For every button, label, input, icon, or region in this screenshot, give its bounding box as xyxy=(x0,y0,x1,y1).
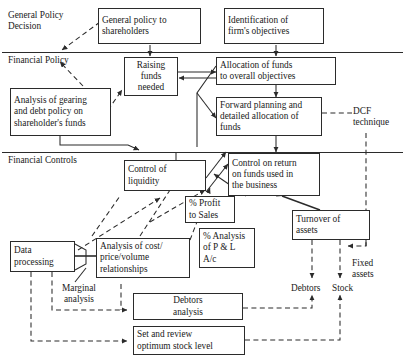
flowchart-diagram: General Policy Decision Financial Policy… xyxy=(0,0,405,363)
edge-allocation-branch xyxy=(197,93,216,118)
label-marginal-analysis: Marginal analysis xyxy=(62,283,96,305)
box-general-policy-to-shareholders[interactable]: General policy to shareholders xyxy=(98,8,201,44)
box-percent-analysis-p-and-l[interactable]: % Analysis of P & L A/c xyxy=(199,228,255,268)
box-control-of-liquidity[interactable]: Control of liquidity xyxy=(124,160,206,191)
box-control-on-return[interactable]: Control on return on funds used in the b… xyxy=(228,153,320,196)
band-label-financial-controls: Financial Controls xyxy=(8,155,77,166)
band-label-financial-policy: Financial Policy xyxy=(8,55,69,66)
edge-data-up-2 xyxy=(92,196,120,236)
box-forward-planning[interactable]: Forward planning and detailed allocation… xyxy=(216,97,322,136)
edge-liquidity-to-upper-right xyxy=(206,152,226,178)
label-dcf-technique: DCF technique xyxy=(353,106,389,128)
label-debtors: Debtors xyxy=(291,283,320,294)
box-identification-of-firms-objectives[interactable]: Identification of firm's objectives xyxy=(224,8,324,44)
edge-marginal-leader xyxy=(75,268,86,282)
box-raising-funds-needed[interactable]: Raising funds needed xyxy=(124,57,178,96)
edge-shareholders-to-financial-policy xyxy=(62,22,100,50)
box-allocation-of-funds[interactable]: Allocation of funds to overall objective… xyxy=(216,57,336,85)
box-percent-profit-to-sales[interactable]: % Profit to Sales xyxy=(185,196,235,223)
label-stock: Stock xyxy=(332,283,353,294)
box-set-and-review-optimum-stock-level[interactable]: Set and review optimum stock level xyxy=(133,326,245,355)
edge-debtors-analysis-to-debtors xyxy=(243,295,312,308)
edge-stock-level-to-stock xyxy=(245,295,340,340)
box-analysis-of-cost-price-volume[interactable]: Analysis of cost/ price/volume relations… xyxy=(96,238,190,278)
edge-control-return-to-turnover xyxy=(282,196,320,210)
band-label-general-policy-decision: General Policy Decision xyxy=(8,10,64,32)
label-fixed-assets: Fixed assets xyxy=(352,258,374,280)
box-analysis-of-gearing[interactable]: Analysis of gearing and debt policy on s… xyxy=(10,88,111,136)
edge-gearing-to-financial-controls xyxy=(60,136,139,150)
edge-liquidity-to-upper-right-2 xyxy=(206,164,228,192)
box-turnover-of-assets[interactable]: Turnover of assets xyxy=(292,210,370,240)
box-data-processing[interactable]: Data processing xyxy=(10,241,75,272)
box-debtors-analysis[interactable]: Debtors analysis xyxy=(133,293,243,320)
